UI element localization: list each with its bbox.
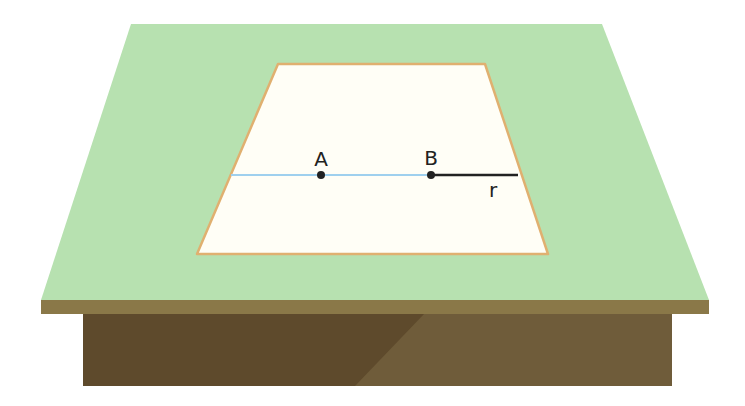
point-b xyxy=(427,171,435,179)
table-diagram: A B r xyxy=(0,0,745,406)
label-r: r xyxy=(489,178,498,202)
label-b: B xyxy=(424,146,438,170)
tabletop-edge xyxy=(41,300,709,314)
box-body xyxy=(83,313,672,386)
label-a: A xyxy=(314,147,328,171)
point-a xyxy=(317,171,325,179)
